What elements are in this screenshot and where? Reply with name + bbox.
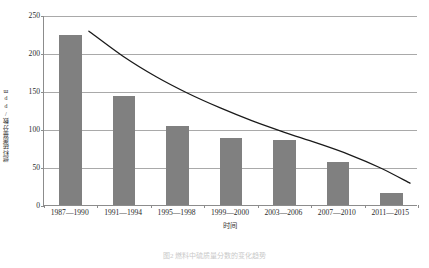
bar xyxy=(327,162,349,205)
x-axis-tick-label: 1995—1998 xyxy=(158,208,196,218)
y-axis-title: 燃料硫质量分数/ppm xyxy=(0,70,12,180)
x-axis-tick-label: 1987—1990 xyxy=(51,208,89,218)
y-axis-tick-label: 100 xyxy=(16,126,40,134)
gridline xyxy=(44,16,417,17)
y-axis-tick-label: 250 xyxy=(16,12,40,20)
x-axis-tick-label: 2007—2010 xyxy=(318,208,356,218)
x-axis-tick-label: 2003—2006 xyxy=(264,208,302,218)
gridline xyxy=(44,92,417,93)
y-axis-tick-mark xyxy=(41,130,44,131)
bar xyxy=(113,96,135,205)
bar xyxy=(59,35,81,205)
y-axis-tick-labels: 050100150200250 xyxy=(12,0,40,268)
bar xyxy=(166,126,188,205)
y-axis-tick-mark xyxy=(41,54,44,55)
figure-caption: 图2 燃料中硫质量分数的变化趋势 xyxy=(0,252,429,261)
y-axis-tick-mark xyxy=(41,92,44,93)
y-axis-tick-label: 150 xyxy=(16,88,40,96)
chart-figure: 燃料硫质量分数/ppm 050100150200250 1987—1990199… xyxy=(0,0,429,268)
y-axis-tick-label: 50 xyxy=(16,164,40,172)
bar xyxy=(220,138,242,205)
x-axis-tick-label: 1999—2000 xyxy=(211,208,249,218)
y-axis-tick-label: 0 xyxy=(16,202,40,210)
x-axis-tick-mark xyxy=(418,205,419,208)
y-axis-tick-label: 200 xyxy=(16,50,40,58)
bar xyxy=(380,193,402,205)
x-axis-tick-labels: 1987—19901991—19941995—19981999—20002003… xyxy=(43,208,417,222)
y-axis-tick-mark xyxy=(41,16,44,17)
x-axis-title: 时间 xyxy=(43,221,417,231)
bar xyxy=(273,140,295,205)
plot-area xyxy=(43,16,417,206)
x-axis-tick-label: 2011—2015 xyxy=(371,208,409,218)
gridline xyxy=(44,130,417,131)
x-axis-tick-label: 1991—1994 xyxy=(104,208,142,218)
gridline xyxy=(44,54,417,55)
y-axis-tick-mark xyxy=(41,168,44,169)
